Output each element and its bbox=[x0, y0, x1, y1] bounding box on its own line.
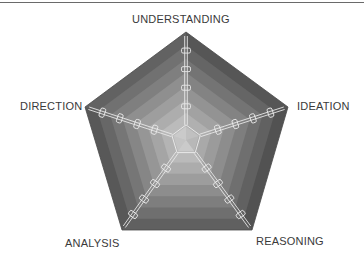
axis-label-direction: DIRECTION bbox=[20, 100, 82, 112]
axis-label-understanding: UNDERSTANDING bbox=[132, 13, 230, 25]
pentagon-diagram bbox=[0, 0, 364, 262]
axis-label-ideation: IDEATION bbox=[297, 100, 350, 112]
axis-label-analysis: ANALYSIS bbox=[65, 237, 120, 249]
axis-label-reasoning: REASONING bbox=[256, 235, 324, 247]
